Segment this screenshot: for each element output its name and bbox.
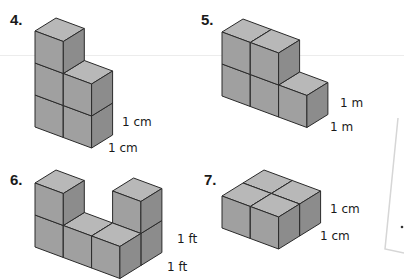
dimension-label-6-depth: 1 ft — [167, 260, 187, 274]
dimension-label-5-depth: 1 m — [330, 120, 353, 134]
problem-number-7: 7. — [204, 171, 217, 188]
bullet-dot — [401, 226, 404, 229]
overlay-page-edge — [385, 118, 404, 253]
dimension-label-4-depth: 1 cm — [108, 141, 138, 155]
dimension-label-4-height: 1 cm — [122, 115, 152, 129]
problem-number-4: 4. — [10, 11, 23, 28]
problem-number-6: 6. — [10, 171, 23, 188]
dimension-label-7-depth: 1 cm — [320, 229, 350, 243]
problem-number-5: 5. — [201, 11, 214, 28]
dimension-label-5-height: 1 m — [340, 96, 363, 110]
dimension-label-6-height: 1 ft — [177, 232, 197, 246]
dimension-label-7-height: 1 cm — [330, 202, 360, 216]
